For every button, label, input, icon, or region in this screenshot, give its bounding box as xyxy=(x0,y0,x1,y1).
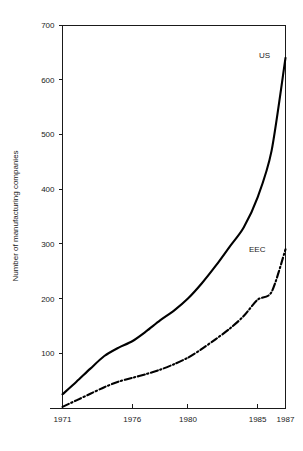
x-tick-label: 1987 xyxy=(277,415,295,424)
series-label-us: US xyxy=(259,51,270,60)
y-tick-label: 200 xyxy=(41,295,55,304)
x-tick-label: 1980 xyxy=(179,415,197,424)
y-tick-label: 400 xyxy=(41,185,55,194)
y-tick-label: 500 xyxy=(41,130,55,139)
y-axis-title: Number of manufacturing companies xyxy=(11,150,20,281)
x-tick-label: 1971 xyxy=(54,415,72,424)
y-tick-label: 100 xyxy=(41,349,55,358)
chart-container: 100200300400500600700 197119761980198519… xyxy=(0,0,303,451)
series-line-us xyxy=(63,58,286,394)
y-tick-label: 700 xyxy=(41,21,55,30)
x-tick-label: 1985 xyxy=(249,415,267,424)
series-label-eec: EEC xyxy=(249,245,266,254)
x-axis-ticks: 19711976198019851987 xyxy=(54,404,295,424)
series-line-eec xyxy=(63,249,286,407)
y-tick-label: 600 xyxy=(41,76,55,85)
line-chart: 100200300400500600700 197119761980198519… xyxy=(0,0,303,451)
y-tick-label: 300 xyxy=(41,240,55,249)
y-axis-ticks: 100200300400500600700 xyxy=(41,21,62,358)
y-axis-title-group: Number of manufacturing companies xyxy=(11,150,20,281)
x-tick-label: 1976 xyxy=(123,415,141,424)
